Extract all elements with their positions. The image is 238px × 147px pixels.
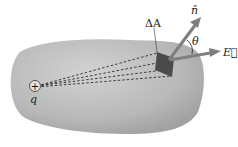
unit-normal-label: n̂ [191,5,198,16]
diagram-canvas: + [0,0,238,147]
charge-q-label: q [30,94,37,105]
charge-sign: + [31,81,39,92]
angle-theta-label: θ [192,36,199,47]
electric-field-label: E⃗ [223,47,238,58]
area-element-label: ΔA [145,18,161,29]
